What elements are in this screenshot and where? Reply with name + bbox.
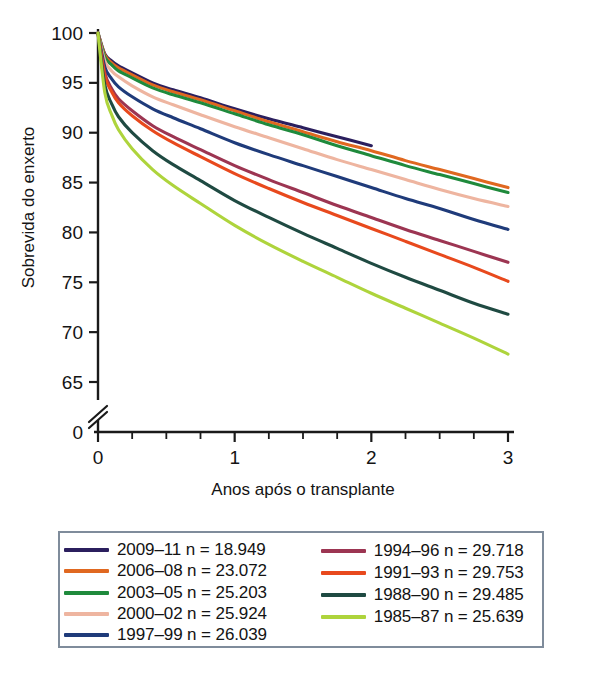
legend-column-left: 2009–11 n = 18.949 2006–08 n = 23.072 20… xyxy=(60,540,319,646)
legend-swatch-line-icon xyxy=(321,571,366,575)
y-tick-label: 100 xyxy=(51,23,83,44)
x-axis-title: Anos após o transplante xyxy=(211,480,394,499)
legend-swatch-line-icon xyxy=(321,593,366,597)
y-tick-label: 75 xyxy=(62,272,83,293)
legend-swatch-line-icon xyxy=(64,569,109,573)
legend-item[interactable]: 1988–90 n = 29.485 xyxy=(321,584,542,605)
series-line-2000-02 xyxy=(98,33,508,207)
legend-swatch-line-icon xyxy=(321,615,366,619)
legend-swatch-line-icon xyxy=(64,591,109,595)
legend-item[interactable]: 2000–02 n = 25.924 xyxy=(64,604,319,624)
legend-item[interactable]: 2006–08 n = 23.072 xyxy=(64,561,319,581)
legend-item[interactable]: 2003–05 n = 25.203 xyxy=(64,582,319,602)
x-tick-label: 2 xyxy=(366,447,377,468)
legend-item-label: 1985–87 n = 25.639 xyxy=(374,607,524,627)
chart-plot-area: 6570758085909510000123Anos após o transp… xyxy=(0,0,608,520)
legend-item-label: 2003–05 n = 25.203 xyxy=(117,583,267,603)
legend-item-label: 1991–93 n = 29.753 xyxy=(374,563,524,583)
y-tick-label: 95 xyxy=(62,72,83,93)
legend-item[interactable]: 1994–96 n = 29.718 xyxy=(321,540,542,561)
y-axis-title: Sobrevida do enxerto xyxy=(19,127,38,289)
legend-item[interactable]: 2009–11 n = 18.949 xyxy=(64,540,319,560)
legend-item-label: 1997–99 n = 26.039 xyxy=(117,625,267,645)
x-tick-label: 0 xyxy=(93,447,104,468)
legend-swatch-line-icon xyxy=(321,549,366,553)
figure: 6570758085909510000123Anos após o transp… xyxy=(0,0,608,683)
x-tick-label: 1 xyxy=(229,447,240,468)
y-tick-label: 85 xyxy=(62,172,83,193)
legend-swatch-line-icon xyxy=(64,548,109,552)
y-tick-label: 65 xyxy=(62,372,83,393)
x-tick-label: 3 xyxy=(503,447,514,468)
legend-item[interactable]: 1991–93 n = 29.753 xyxy=(321,562,542,583)
legend-item-label: 1994–96 n = 29.718 xyxy=(374,541,524,561)
chart-legend: 2009–11 n = 18.949 2006–08 n = 23.072 20… xyxy=(58,531,544,648)
y-tick-label: 90 xyxy=(62,122,83,143)
legend-swatch-line-icon xyxy=(64,612,109,616)
legend-item-label: 2006–08 n = 23.072 xyxy=(117,561,267,581)
y-tick-label: 70 xyxy=(62,322,83,343)
survival-line-chart: 6570758085909510000123Anos após o transp… xyxy=(0,0,608,520)
y-tick-label: 80 xyxy=(62,222,83,243)
legend-item[interactable]: 1997–99 n = 26.039 xyxy=(64,625,319,645)
legend-swatch-line-icon xyxy=(64,633,109,637)
legend-item[interactable]: 1985–87 n = 25.639 xyxy=(321,606,542,627)
legend-column-right: 1994–96 n = 29.718 1991–93 n = 29.753 19… xyxy=(319,540,542,646)
legend-item-label: 2009–11 n = 18.949 xyxy=(117,540,266,560)
y-axis-zero-label: 0 xyxy=(72,422,83,443)
legend-item-label: 1988–90 n = 29.485 xyxy=(374,585,524,605)
legend-item-label: 2000–02 n = 25.924 xyxy=(117,604,267,624)
